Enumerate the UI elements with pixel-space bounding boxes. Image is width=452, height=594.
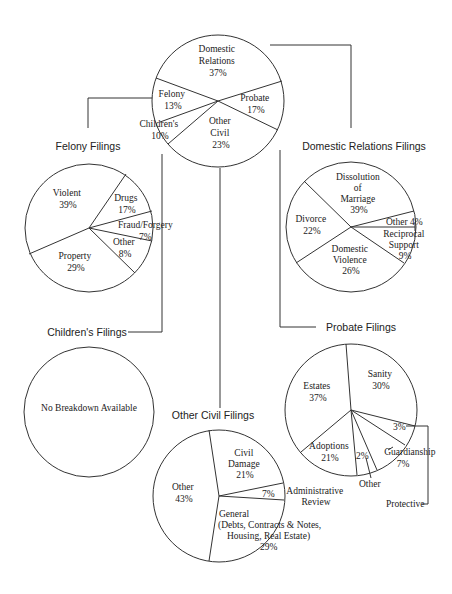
label-probate-2pct: 2% — [356, 451, 369, 461]
childrens-pie: Children's Filings No Breakdown Availabl… — [24, 326, 154, 477]
label-dr-other: Other 4% — [386, 217, 423, 227]
label-fraud-forgery-pct: 7% — [139, 232, 152, 242]
pie-chart-diagram: Domestic Relations 37% Probate 17% Other… — [0, 0, 452, 594]
domestic-relations-pie: Domestic Relations Filings Dissolution o… — [286, 140, 427, 292]
label-other-civil: Other Civil 23% — [209, 116, 233, 150]
label-probate-other: Other — [359, 479, 381, 489]
felony-pie: Felony Filings Violent 39% Drugs 17% Fra… — [25, 140, 173, 292]
other-civil-filings-title: Other Civil Filings — [172, 409, 254, 421]
no-breakdown-note: No Breakdown Available — [41, 403, 137, 413]
probate-pie: Probate Filings Sanity 30% Estates 37% A… — [285, 321, 438, 509]
label-protective-pct: 3% — [393, 422, 406, 432]
domestic-relations-filings-title: Domestic Relations Filings — [302, 140, 426, 152]
label-admin-review-pct: 7% — [262, 489, 275, 499]
label-fraud-forgery: Fraud/Forgery — [118, 220, 173, 230]
main-pie: Domestic Relations 37% Probate 17% Other… — [139, 35, 284, 167]
label-protective: Protective — [386, 499, 425, 509]
childrens-filings-title: Children's Filings — [47, 326, 127, 338]
probate-filings-title: Probate Filings — [326, 321, 396, 333]
label-administrative-review: Administrative Review — [286, 486, 345, 507]
felony-filings-title: Felony Filings — [56, 140, 121, 152]
